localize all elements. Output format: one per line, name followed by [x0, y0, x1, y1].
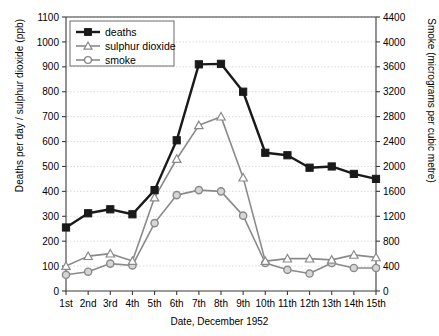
data-point-deaths	[217, 60, 224, 67]
y-tick-label-left: 1000	[37, 37, 60, 48]
data-point-deaths	[328, 163, 335, 170]
x-tick-label: 1st	[59, 298, 73, 309]
data-point-deaths	[62, 224, 69, 231]
data-point-smoke	[151, 220, 158, 227]
air-pollution-line-chart: Deaths per day / sulphur dioxide (ppb) S…	[0, 0, 439, 336]
y-tick-label-left: 1100	[37, 12, 59, 23]
x-tick-label: 9th	[236, 298, 250, 309]
x-tick-label: 2nd	[80, 298, 97, 309]
y-tick-label-right: 2000	[383, 161, 406, 172]
y-tick-label-left: 900	[42, 61, 59, 72]
y-tick-label-left: 600	[42, 136, 59, 147]
data-point-sulphur-dioxide	[239, 173, 247, 181]
data-point-smoke	[173, 192, 180, 199]
data-point-smoke	[107, 260, 114, 267]
series-line-deaths	[66, 64, 376, 228]
plot-canvas: 0100200300400500600700800900100011000400…	[0, 0, 439, 336]
legend-marker-smoke	[85, 57, 92, 64]
data-point-sulphur-dioxide	[217, 112, 225, 120]
x-tick-label: 11th	[278, 298, 297, 309]
y-tick-label-right: 3600	[383, 61, 406, 72]
x-tick-label: 5th	[148, 298, 162, 309]
data-point-smoke	[195, 187, 202, 194]
data-point-deaths	[173, 137, 180, 144]
y-tick-label-right: 3200	[383, 86, 406, 97]
x-tick-label: 13th	[322, 298, 341, 309]
y-tick-label-right: 1600	[383, 186, 406, 197]
y-tick-label-left: 700	[42, 111, 59, 122]
data-point-deaths	[372, 175, 379, 182]
x-tick-label: 3rd	[103, 298, 117, 309]
data-point-smoke	[62, 271, 69, 278]
y-tick-label-right: 800	[383, 236, 400, 247]
y-tick-label-right: 4000	[383, 37, 406, 48]
x-tick-label: 4th	[125, 298, 139, 309]
data-point-smoke	[85, 268, 92, 275]
y-tick-label-left: 500	[42, 161, 59, 172]
data-point-smoke	[284, 266, 291, 273]
y-tick-label-right: 0	[383, 286, 389, 297]
y-tick-label-left: 400	[42, 186, 59, 197]
data-point-smoke	[217, 188, 224, 195]
x-tick-label: 10th	[256, 298, 275, 309]
y-tick-label-right: 2400	[383, 136, 406, 147]
data-point-smoke	[306, 270, 313, 277]
legend-label-smoke: smoke	[105, 54, 136, 66]
legend-label-deaths: deaths	[105, 26, 137, 38]
data-point-smoke	[240, 212, 247, 219]
y-tick-label-right: 1200	[383, 211, 406, 222]
y-tick-label-left: 300	[42, 211, 59, 222]
y-tick-label-left: 0	[53, 286, 59, 297]
data-point-deaths	[151, 187, 158, 194]
x-axis-label: Date, December 1952	[0, 316, 439, 327]
data-point-deaths	[284, 152, 291, 159]
data-point-deaths	[195, 61, 202, 68]
data-point-smoke	[350, 264, 357, 271]
data-point-deaths	[85, 210, 92, 217]
x-tick-label: 8th	[214, 298, 228, 309]
legend-label-sulphur-dioxide: sulphur dioxide	[105, 40, 176, 52]
y-tick-label-right: 400	[383, 261, 400, 272]
data-point-deaths	[107, 206, 114, 213]
x-tick-label: 15th	[366, 298, 385, 309]
y-tick-label-right: 2800	[383, 111, 406, 122]
x-tick-label: 6th	[170, 298, 184, 309]
y-axis-right-label: Smoke (micrograms per cubic metre)	[426, 0, 437, 221]
data-point-smoke	[372, 264, 379, 271]
y-tick-label-right: 4400	[383, 12, 406, 23]
y-axis-left-label: Deaths per day / sulphur dioxide (ppb)	[14, 0, 25, 221]
data-point-deaths	[350, 170, 357, 177]
legend-marker-deaths	[85, 29, 92, 36]
x-tick-label: 14th	[344, 298, 363, 309]
x-tick-label: 12th	[300, 298, 319, 309]
data-point-deaths	[306, 164, 313, 171]
data-point-deaths	[262, 149, 269, 156]
data-point-deaths	[129, 211, 136, 218]
data-point-deaths	[240, 88, 247, 95]
y-tick-label-left: 200	[42, 236, 59, 247]
x-tick-label: 7th	[192, 298, 206, 309]
y-tick-label-left: 100	[42, 261, 59, 272]
y-tick-label-left: 800	[42, 86, 59, 97]
